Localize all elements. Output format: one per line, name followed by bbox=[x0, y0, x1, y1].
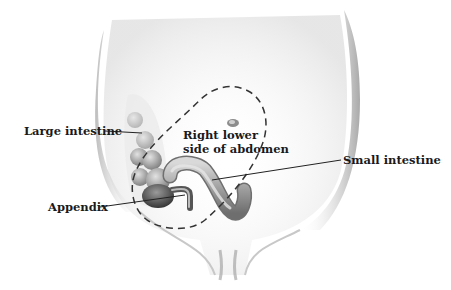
label-appendix: Appendix bbox=[48, 200, 108, 214]
abdomen-diagram: Large intestine Right lower side of abdo… bbox=[0, 0, 451, 290]
label-region-line2: side of abdomen bbox=[183, 142, 289, 156]
label-large-intestine: Large intestine bbox=[24, 124, 122, 138]
label-region-line1: Right lower bbox=[183, 128, 258, 142]
label-small-intestine: Small intestine bbox=[343, 153, 441, 167]
